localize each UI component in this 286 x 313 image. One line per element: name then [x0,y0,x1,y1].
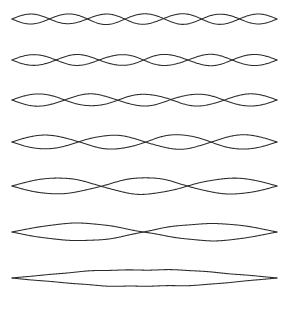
mode-row-harmonic-6 [12,54,277,65]
mode-curve-harmonic-7-upper [12,14,277,25]
mode-row-harmonic-5 [12,94,277,106]
mode-row-harmonic-3 [12,178,277,195]
mode-curve-harmonic-4-lower [12,135,277,150]
mode-row-harmonic-1 [12,270,277,287]
mode-row-harmonic-2 [12,223,277,241]
mode-curve-harmonic-6-lower [12,54,277,65]
mode-rows-group [12,14,277,287]
mode-row-harmonic-4 [12,135,277,150]
mode-curve-harmonic-1-upper [12,270,277,278]
mode-curve-harmonic-2-lower [12,224,277,241]
mode-curve-harmonic-1-lower [12,278,277,286]
harmonics-diagram [0,0,286,313]
mode-row-harmonic-7 [12,14,277,25]
standing-wave-figure [0,0,286,313]
mode-curve-harmonic-3-lower [12,178,277,194]
mode-curve-harmonic-7-lower [12,14,277,25]
mode-curve-harmonic-3-upper [12,178,277,194]
